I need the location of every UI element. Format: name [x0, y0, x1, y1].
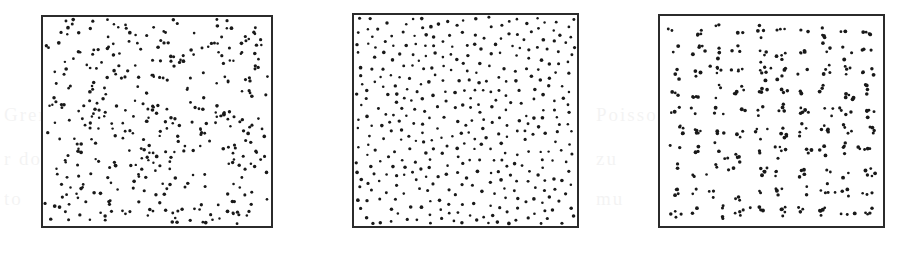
figure-root: Gren ofoon and lar domtoPoisson istzumu [0, 0, 923, 257]
ghost-text-line: zu [596, 148, 618, 170]
point-pattern-panel-random [41, 15, 273, 228]
point-pattern-panel-regular [352, 13, 579, 228]
panel-frame-regular [352, 13, 579, 228]
ghost-text-line: to [4, 188, 23, 210]
panel-frame-random [41, 15, 273, 228]
point-pattern-panel-clustered [658, 14, 885, 228]
ghost-text-line: mu [596, 188, 624, 210]
panel-frame-clustered [658, 14, 885, 228]
